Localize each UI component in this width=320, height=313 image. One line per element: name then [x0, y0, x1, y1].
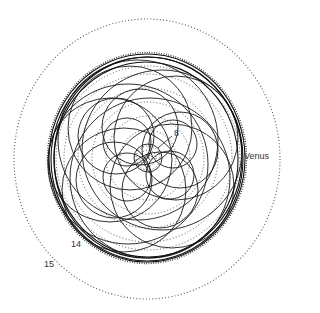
label-15: 15 [44, 260, 54, 269]
label-14: 14 [71, 240, 81, 249]
label-8: 8 [174, 129, 179, 138]
label-venus: Venus [244, 152, 269, 161]
